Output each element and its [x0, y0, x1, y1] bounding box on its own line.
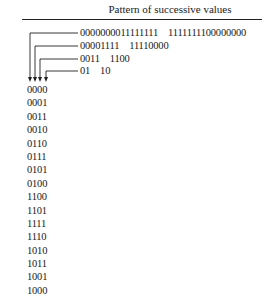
- sequence-value: 1011: [27, 257, 47, 270]
- pattern-first-half: 00001111: [80, 40, 119, 51]
- sequence-value: 0000: [27, 83, 47, 96]
- pattern-row-bit-2: 0000111111110000: [80, 40, 168, 51]
- sequence-value: 0101: [27, 163, 47, 176]
- sequence-value: 1111: [27, 217, 47, 230]
- sequence-value: 0111: [27, 150, 47, 163]
- pattern-second-half: 11110000: [129, 40, 168, 51]
- pattern-row-bit-1: 00000000111111111111111100000000: [80, 27, 246, 38]
- arrow-bit-4: [46, 71, 78, 79]
- arrow-bit-2: [35, 46, 78, 79]
- sequence-value: 1101: [27, 204, 47, 217]
- pattern-row-bit-3: 00111100: [80, 53, 130, 64]
- gray-code-sequence: 0000 0001 0011 0010 0110 0111 0101 0100 …: [27, 83, 47, 297]
- pattern-first-half: 0011: [80, 53, 100, 64]
- sequence-value: 1110: [27, 230, 47, 243]
- sequence-value: 0001: [27, 96, 47, 109]
- arrow-bit-1: [30, 33, 78, 79]
- sequence-value: 1100: [27, 190, 47, 203]
- sequence-value: 0110: [27, 137, 47, 150]
- pattern-first-half: 0000000011111111: [80, 27, 158, 38]
- sequence-value: 1000: [27, 284, 47, 297]
- pattern-first-half: 01: [80, 65, 90, 76]
- sequence-value: 0011: [27, 110, 47, 123]
- arrowhead-icon: [33, 77, 37, 82]
- arrowhead-icon: [38, 77, 42, 82]
- sequence-value: 0010: [27, 123, 47, 136]
- pattern-row-bit-4: 0110: [80, 65, 110, 76]
- arrowhead-icon: [44, 77, 48, 82]
- sequence-value: 0100: [27, 177, 47, 190]
- pattern-second-half: 1111111100000000: [168, 27, 246, 38]
- sequence-value: 1010: [27, 244, 47, 257]
- sequence-value: 1001: [27, 270, 47, 283]
- pattern-second-half: 10: [100, 65, 110, 76]
- pattern-second-half: 1100: [110, 53, 130, 64]
- arrowhead-icon: [28, 77, 32, 82]
